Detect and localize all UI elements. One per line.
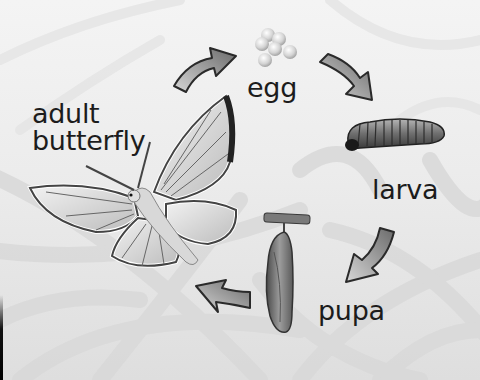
chrysalis-icon (262, 212, 310, 336)
arrow-egg-to-larva (318, 52, 378, 104)
adult-label-line-1: adult (32, 100, 99, 127)
left-edge-shadow (0, 295, 3, 380)
pupa-label: pupa (318, 297, 385, 324)
arrow-larva-to-pupa (340, 226, 396, 288)
egg-cluster-icon (248, 26, 300, 72)
arrow-pupa-to-adult (192, 274, 252, 314)
adult-label-line-2: butterfly (32, 127, 145, 154)
caterpillar-icon (340, 112, 448, 158)
egg-label: egg (247, 74, 297, 101)
larva-label: larva (372, 176, 438, 203)
arrow-adult-to-egg (170, 40, 240, 96)
life-cycle-diagram: egg larva pupa (0, 0, 480, 380)
